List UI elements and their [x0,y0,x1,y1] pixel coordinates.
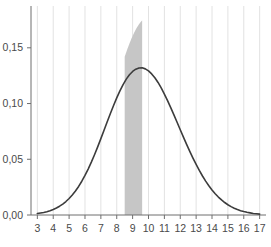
shaded-region [125,20,142,215]
y-tick-label-1: 0,05 [3,153,24,165]
x-tick-label-14: 17 [254,222,266,234]
x-tick-label-3: 6 [82,222,88,234]
x-tick-label-1: 4 [50,222,56,234]
x-tick-label-2: 5 [66,222,72,234]
x-tick-label-0: 3 [34,222,40,234]
x-tick-label-13: 16 [238,222,250,234]
x-tick-label-8: 11 [159,222,170,234]
x-tick-label-5: 8 [114,222,120,234]
chart-container: 0,000,050,100,15 34567891011121314151617 [0,0,271,247]
x-tick-label-4: 7 [98,222,104,234]
y-tick-label-0: 0,00 [3,209,24,221]
y-tick-label-2: 0,10 [3,97,24,109]
x-tick-label-7: 10 [143,222,155,234]
normal-distribution-chart: 0,000,050,100,15 34567891011121314151617 [0,0,271,247]
x-tick-label-11: 14 [206,222,218,234]
x-tick-label-6: 9 [130,222,136,234]
x-axis-labels: 34567891011121314151617 [34,222,265,234]
x-tick-label-9: 12 [174,222,186,234]
x-tick-label-12: 15 [222,222,234,234]
shaded-area-path [125,20,142,215]
y-tick-label-3: 0,15 [3,41,24,53]
x-tick-label-10: 13 [190,222,202,234]
